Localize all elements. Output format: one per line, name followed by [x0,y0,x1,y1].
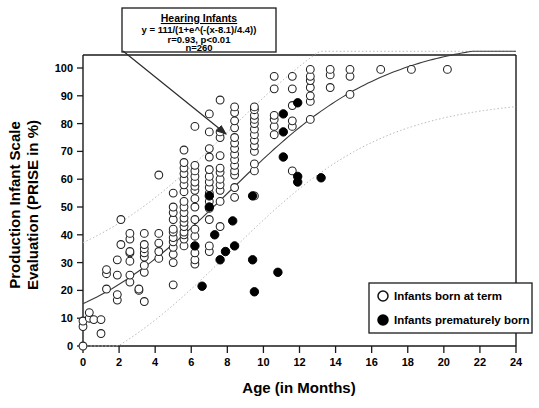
data-point [231,117,239,125]
data-point [270,85,278,93]
y-tick-label: 0 [67,340,73,352]
data-point [216,198,224,206]
y-tick-label: 100 [55,62,73,74]
y-tick-label: 40 [61,229,73,241]
data-point [169,281,177,289]
data-point [408,66,416,74]
x-tick-label: 2 [116,356,122,368]
data-point [231,103,239,111]
data-point [229,217,237,225]
data-point [205,110,213,118]
data-point [198,282,206,290]
data-point [251,103,259,111]
data-point [205,203,213,211]
data-point [205,242,213,250]
data-point [126,248,134,256]
data-point [117,241,125,249]
data-point [126,257,134,265]
x-tick-label: 8 [224,356,230,368]
data-point [180,146,188,154]
data-point [191,123,199,131]
data-point [180,159,188,167]
data-point [251,160,259,168]
data-point [306,92,314,100]
data-point [294,172,302,180]
data-point [79,342,87,350]
legend-marker-filled-circle-icon [378,315,388,325]
data-point [169,259,177,267]
x-tick-label: 18 [402,356,414,368]
data-point [117,216,125,224]
y-tick-label: 70 [61,145,73,157]
data-point [294,99,302,107]
data-point [113,271,121,279]
y-tick-label: 80 [61,118,73,130]
data-point [169,189,177,197]
data-point [180,198,188,206]
data-point [346,66,354,74]
legend-label-preterm: Infants prematurely born [394,314,529,326]
y-tick-label: 90 [61,90,73,102]
data-point [191,161,199,169]
data-point [140,298,148,306]
y-axis-title-line1: Production Infant Scale [6,121,23,289]
data-point [288,85,296,93]
data-point [169,225,177,233]
y-tick-label: 20 [61,284,73,296]
x-tick-label: 22 [474,356,486,368]
data-point [279,128,287,136]
legend-marker-open-circle-icon [378,291,388,301]
data-point [279,110,287,118]
data-point [205,216,213,224]
x-tick-label: 0 [80,356,86,368]
annotation-n: n=260 [185,42,212,53]
data-point [135,285,143,293]
legend-label-term: Infants born at term [394,290,502,302]
data-point [306,66,314,74]
data-point [288,117,296,125]
data-point [270,111,278,119]
figure-container: 0102030405060708090100024681012141618202… [0,0,539,408]
y-tick-label: 30 [61,257,73,269]
data-point [346,91,354,99]
data-point [250,288,258,296]
data-point [126,271,134,279]
data-point [140,262,148,270]
data-point [326,84,334,92]
data-point [155,230,163,238]
annotation-arrow [123,51,226,134]
data-point [270,131,278,139]
data-point [140,230,148,238]
x-tick-label: 10 [257,356,269,368]
data-point [221,247,229,255]
data-point [326,66,334,74]
data-point [205,145,213,153]
data-point [191,216,199,224]
data-point [191,225,199,233]
data-point [155,171,163,179]
y-tick-label: 10 [61,312,73,324]
data-point [205,153,213,161]
data-point [113,291,121,299]
x-tick-label: 14 [329,356,342,368]
data-point [169,203,177,211]
data-point [103,285,111,293]
data-point [191,242,199,250]
data-point [205,128,213,136]
data-point [113,256,121,264]
legend: Infants born at term Infants prematurely… [369,283,532,333]
data-point [230,242,238,250]
data-point [205,192,213,200]
data-point [191,203,199,211]
data-point [85,309,93,317]
data-point [103,266,111,274]
annotation-box: Hearing Infants y = 111/(1+e^(-(x-8.1)/4… [122,8,276,53]
data-point [216,256,224,264]
data-point [274,268,282,276]
y-tick-label: 60 [61,173,73,185]
scatter-plot: 0102030405060708090100024681012141618202… [0,0,539,408]
data-point [231,134,239,142]
data-point [270,72,278,80]
data-point [155,239,163,247]
y-axis-title-line2: Evaluation (PRISE in %) [24,120,41,290]
